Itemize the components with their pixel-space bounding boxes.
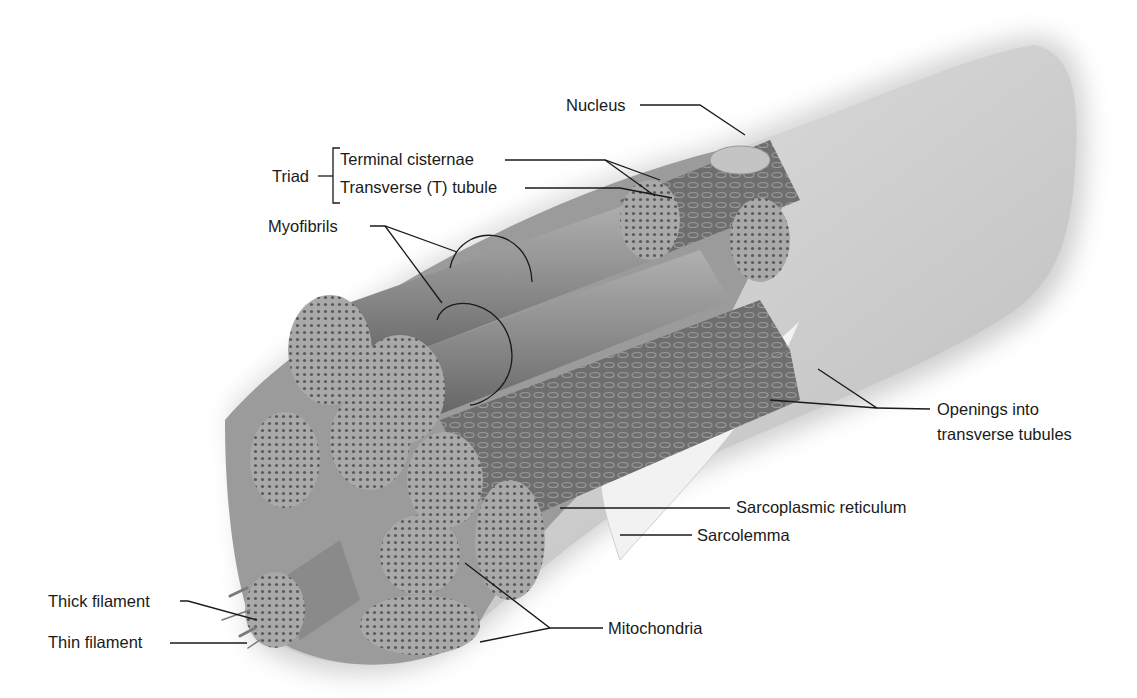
label-openings-line1: Openings into xyxy=(937,400,1039,419)
label-triad: Triad xyxy=(272,167,309,186)
nucleus-shape xyxy=(710,146,770,174)
label-mitochondria: Mitochondria xyxy=(608,619,702,638)
label-myofibrils: Myofibrils xyxy=(268,217,338,236)
label-thick-filament: Thick filament xyxy=(48,592,150,611)
muscle-fiber-diagram: Nucleus Triad Terminal cisternae Transve… xyxy=(0,0,1137,698)
label-sarcoplasmic-reticulum: Sarcoplasmic reticulum xyxy=(736,498,907,517)
label-nucleus: Nucleus xyxy=(566,96,626,115)
label-openings-line2: transverse tubules xyxy=(937,425,1072,444)
label-t-tubule: Transverse (T) tubule xyxy=(340,178,497,197)
label-thin-filament: Thin filament xyxy=(48,633,142,652)
label-sarcolemma: Sarcolemma xyxy=(697,526,790,545)
label-terminal-cisternae: Terminal cisternae xyxy=(340,150,474,169)
